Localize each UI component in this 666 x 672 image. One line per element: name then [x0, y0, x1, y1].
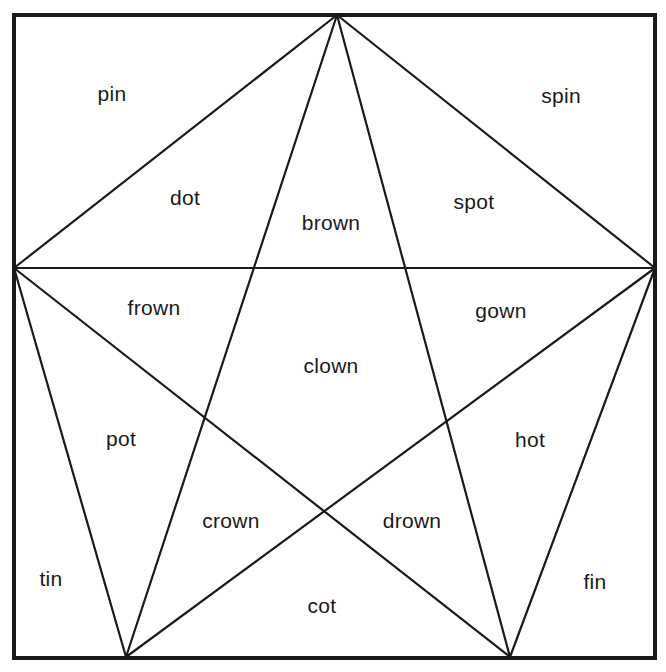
label-spot: spot — [454, 191, 495, 212]
star-left-to-bottom-right-line — [14, 268, 510, 657]
pentagon-top-right-edge — [337, 15, 655, 268]
star-top-to-bottom-left-line — [126, 15, 337, 657]
star-top-to-bottom-right-line — [337, 15, 510, 657]
label-gown: gown — [475, 300, 526, 321]
pentagon-top-left-edge — [14, 15, 337, 268]
outer-frame — [14, 15, 655, 658]
label-drown: drown — [383, 510, 442, 531]
label-spin: spin — [541, 85, 581, 106]
label-frown: frown — [128, 297, 181, 318]
pentagon-left-edge — [14, 268, 126, 657]
label-hot: hot — [515, 429, 545, 450]
label-pin: pin — [98, 83, 127, 104]
label-dot: dot — [170, 187, 200, 208]
label-fin: fin — [583, 571, 606, 592]
pentagon-right-edge — [510, 268, 655, 657]
star-right-to-bottom-left-line — [126, 268, 655, 657]
label-crown: crown — [202, 510, 260, 531]
label-cot: cot — [308, 595, 337, 616]
label-tin: tin — [39, 568, 62, 589]
label-pot: pot — [106, 428, 136, 449]
label-clown: clown — [303, 355, 358, 376]
label-brown: brown — [302, 212, 361, 233]
